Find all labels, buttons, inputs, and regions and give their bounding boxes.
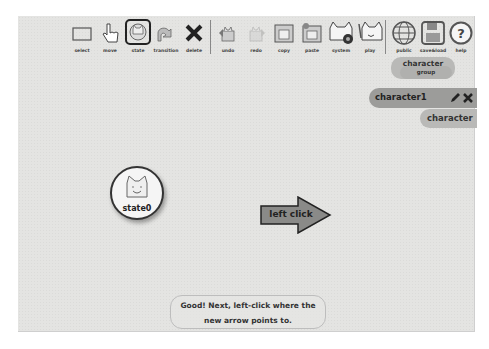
- add-character-button[interactable]: character: [420, 109, 477, 128]
- globe-icon: [391, 20, 417, 46]
- character-group-label-line2: group: [400, 69, 452, 75]
- copy-folder-icon: [272, 21, 296, 45]
- left-click-arrow-hint: left click: [260, 196, 332, 234]
- instruction-text: Good! Next, left-click where the new arr…: [180, 301, 315, 325]
- undo-cat-icon: [216, 21, 240, 45]
- state-node[interactable]: state0: [110, 166, 164, 220]
- hand-pointer-icon: [98, 21, 122, 45]
- floppy-disk-icon: [420, 20, 446, 46]
- state-label: state0: [112, 204, 162, 213]
- question-circle-icon: ?: [449, 21, 473, 45]
- character-group-underlay: group: [400, 66, 452, 79]
- cat-play-icon: [356, 20, 384, 46]
- tool-label: help: [440, 48, 482, 53]
- tool-help[interactable]: ? help: [446, 19, 476, 55]
- tool-play[interactable]: play: [355, 19, 385, 55]
- instruction-bubble: Good! Next, left-click where the new arr…: [170, 295, 326, 329]
- x-icon: [182, 21, 206, 45]
- selected-character-label: character1: [375, 92, 427, 102]
- tool-delete[interactable]: delete: [179, 19, 209, 55]
- select-rect-icon: [70, 21, 94, 45]
- curved-arrow-icon: [154, 21, 178, 45]
- selected-character-item[interactable]: character1: [369, 88, 477, 108]
- add-character-label: character: [427, 113, 473, 123]
- pencil-edit-icon[interactable]: [449, 92, 461, 104]
- cat-gear-icon: [327, 20, 355, 46]
- arrow-hint-label: left click: [260, 209, 322, 219]
- paste-folder-icon: [300, 21, 324, 45]
- cat-state-icon: [125, 19, 151, 45]
- close-icon[interactable]: [462, 92, 474, 104]
- cat-face-icon: [123, 173, 151, 201]
- svg-text:?: ?: [457, 26, 465, 41]
- redo-cat-icon: [244, 21, 268, 45]
